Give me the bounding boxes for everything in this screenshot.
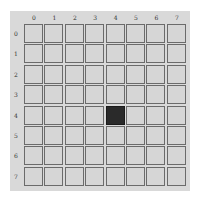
grid-cell[interactable] (146, 24, 165, 43)
grid-cell-filled[interactable] (106, 106, 125, 125)
grid-cell[interactable] (146, 85, 165, 104)
grid-cell[interactable] (126, 126, 145, 145)
grid-cell[interactable] (44, 44, 63, 63)
board-panel: 0123456701234567 (10, 11, 190, 191)
grid-cell[interactable] (85, 126, 104, 145)
grid-cell[interactable] (167, 24, 186, 43)
grid-cell[interactable] (106, 44, 125, 63)
row-label: 3 (6, 91, 26, 99)
grid-cell[interactable] (65, 106, 84, 125)
row-label: 2 (6, 71, 26, 79)
column-label: 1 (44, 14, 64, 22)
grid-cell[interactable] (85, 65, 104, 84)
row-label: 7 (6, 173, 26, 181)
grid-cell[interactable] (167, 146, 186, 165)
column-label: 5 (126, 14, 146, 22)
grid-cell[interactable] (24, 146, 43, 165)
grid-cell[interactable] (167, 106, 186, 125)
grid-cell[interactable] (146, 44, 165, 63)
grid-cell[interactable] (167, 167, 186, 186)
grid-cell[interactable] (85, 24, 104, 43)
grid-cell[interactable] (85, 85, 104, 104)
grid-cell[interactable] (44, 126, 63, 145)
grid-cell[interactable] (24, 65, 43, 84)
grid-cell[interactable] (44, 146, 63, 165)
grid-cell[interactable] (146, 65, 165, 84)
grid-cell[interactable] (44, 106, 63, 125)
row-label: 1 (6, 50, 26, 58)
grid-cell[interactable] (85, 106, 104, 125)
row-label: 4 (6, 112, 26, 120)
grid-cell[interactable] (65, 65, 84, 84)
grid-cell[interactable] (44, 24, 63, 43)
grid-cell[interactable] (24, 126, 43, 145)
grid-cell[interactable] (65, 44, 84, 63)
grid-cell[interactable] (126, 106, 145, 125)
column-label: 0 (24, 14, 44, 22)
grid-cell[interactable] (167, 65, 186, 84)
column-label: 3 (85, 14, 105, 22)
grid-cell[interactable] (126, 44, 145, 63)
row-label: 6 (6, 152, 26, 160)
column-label: 6 (146, 14, 166, 22)
grid-cell[interactable] (126, 65, 145, 84)
grid-cell[interactable] (24, 167, 43, 186)
grid-cell[interactable] (65, 24, 84, 43)
grid-cell[interactable] (146, 167, 165, 186)
row-label: 0 (6, 30, 26, 38)
grid-cell[interactable] (106, 146, 125, 165)
grid-cell[interactable] (65, 126, 84, 145)
grid-cell[interactable] (126, 167, 145, 186)
grid-cell[interactable] (126, 146, 145, 165)
column-label: 7 (167, 14, 187, 22)
grid-cell[interactable] (146, 106, 165, 125)
grid-cell[interactable] (44, 85, 63, 104)
row-label: 5 (6, 132, 26, 140)
grid-cell[interactable] (85, 146, 104, 165)
grid-cell[interactable] (126, 24, 145, 43)
column-label: 4 (106, 14, 126, 22)
column-label: 2 (65, 14, 85, 22)
grid-cell[interactable] (24, 44, 43, 63)
grid-cell[interactable] (24, 24, 43, 43)
grid-cell[interactable] (65, 146, 84, 165)
grid-cell[interactable] (167, 44, 186, 63)
grid-cell[interactable] (65, 167, 84, 186)
grid-cell[interactable] (85, 167, 104, 186)
grid-cell[interactable] (24, 106, 43, 125)
grid-cell[interactable] (85, 44, 104, 63)
grid-cell[interactable] (24, 85, 43, 104)
grid-cell[interactable] (106, 24, 125, 43)
grid-cell[interactable] (106, 85, 125, 104)
grid-cell[interactable] (167, 85, 186, 104)
grid-cell[interactable] (146, 146, 165, 165)
grid-cell[interactable] (106, 65, 125, 84)
grid-cell[interactable] (126, 85, 145, 104)
grid-cell[interactable] (65, 85, 84, 104)
grid-cell[interactable] (167, 126, 186, 145)
grid-cell[interactable] (44, 65, 63, 84)
grid-cell[interactable] (106, 126, 125, 145)
grid-cell[interactable] (146, 126, 165, 145)
grid-cell[interactable] (44, 167, 63, 186)
grid-cell[interactable] (106, 167, 125, 186)
